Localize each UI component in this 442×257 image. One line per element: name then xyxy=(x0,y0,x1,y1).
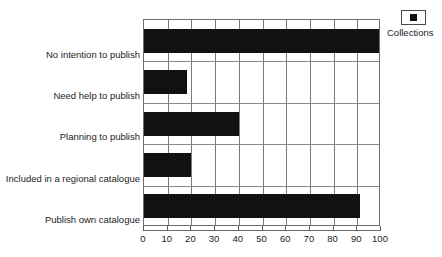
x-tick-80 xyxy=(333,226,334,231)
x-tick-30 xyxy=(214,226,215,231)
bar-2 xyxy=(144,112,239,136)
gridline-y-3 xyxy=(144,144,379,145)
x-tick-label-0: 0 xyxy=(140,233,145,245)
x-tick-10 xyxy=(167,226,168,231)
x-tick-label-90: 90 xyxy=(351,233,362,245)
bar-1 xyxy=(144,70,187,94)
gridline-y-4 xyxy=(144,186,379,187)
legend-square-marker-icon xyxy=(410,14,417,21)
x-tick-label-60: 60 xyxy=(280,233,291,245)
legend-box xyxy=(401,10,426,25)
x-tick-label-30: 30 xyxy=(209,233,220,245)
bar-3 xyxy=(144,153,191,177)
x-tick-label-50: 50 xyxy=(256,233,267,245)
gridline-y-2 xyxy=(144,103,379,104)
x-tick-label-10: 10 xyxy=(161,233,172,245)
legend-label: Collections xyxy=(387,27,433,39)
y-axis-label-2: Planning to publish xyxy=(3,131,143,142)
x-tick-label-80: 80 xyxy=(327,233,338,245)
x-tick-label-20: 20 xyxy=(185,233,196,245)
clipped-title-remnant xyxy=(300,0,340,1)
y-axis-label-1: Need help to publish xyxy=(3,90,143,101)
x-tick-40 xyxy=(238,226,239,231)
x-tick-20 xyxy=(190,226,191,231)
x-tick-100 xyxy=(380,226,381,231)
y-axis-label-3: Included in a regional catalogue xyxy=(3,173,143,184)
plot-area xyxy=(143,19,380,226)
x-tick-0 xyxy=(143,226,144,231)
bar-4 xyxy=(144,194,360,218)
x-tick-label-100: 100 xyxy=(372,233,388,245)
y-axis-label-4: Publish own catalogue xyxy=(3,214,143,225)
y-axis-label-0: No intention to publish xyxy=(3,49,143,60)
x-tick-90 xyxy=(356,226,357,231)
bar-chart: No intention to publish Need help to pub… xyxy=(0,0,442,257)
x-tick-label-70: 70 xyxy=(304,233,315,245)
x-tick-60 xyxy=(285,226,286,231)
x-tick-70 xyxy=(309,226,310,231)
y-axis-category-labels: No intention to publish Need help to pub… xyxy=(0,19,143,226)
x-tick-50 xyxy=(262,226,263,231)
bar-0 xyxy=(144,29,379,53)
gridline-y-1 xyxy=(144,61,379,62)
x-tick-label-40: 40 xyxy=(233,233,244,245)
